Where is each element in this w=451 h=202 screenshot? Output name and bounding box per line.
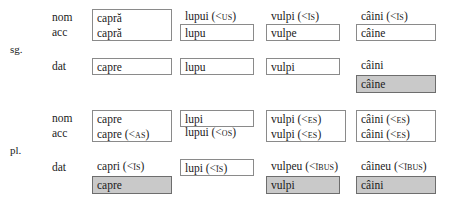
paradigm-table: sg. nom acc dat capră capră capre lupui … [0,0,451,202]
cell-acc-vulpe-sg: vulpe [266,24,340,41]
etymon-smallcaps: es [397,113,407,125]
etymon-tail: ) [317,113,321,125]
etymon-reflex: câineu (< [361,160,404,172]
cell-text-dat: capre [97,60,171,75]
column-lup-sg: lupui (<us) lupu lupu [180,0,266,101]
cell-dat-caine-pl: câineu (<ībus) [356,159,440,176]
cell-text-acc: capre (<as) [97,127,171,142]
etymon-tail: ) [334,160,338,172]
etymon-reflex: vulpi (< [271,128,308,140]
cell-nom-acc-capra-pl: capre capre (<as) [92,110,172,142]
case-label-acc-pl: acc [52,127,86,140]
case-label-nom-pl: nom [52,112,86,125]
column-vulpe-sg: vulpi (<īs) vulpe vulpi [266,0,352,101]
cell-dat-lup-sg: lupu [180,58,254,75]
column-lup-pl: lupi lupui (<os) lupi (<īs) [180,101,266,202]
etymon-smallcaps: es [308,128,318,140]
cell-dat-alt-vulpe-pl: vulpi [266,176,340,194]
etymon-reflex: lupui (< [185,10,222,22]
number-label-singular: sg. [10,43,44,55]
case-label-acc-sg: acc [52,26,86,39]
cell-dat-vulpe-pl: vulpeu (<ībus) [266,159,346,176]
etymon-reflex: capri (< [97,160,133,172]
cell-text-nom: vulpi (<es) [271,112,345,127]
number-block-plural: pl. nom acc dat capre capre (<as) capri … [0,101,451,202]
etymon-smallcaps: ībus [316,160,335,172]
etymon-reflex: vulpi (< [271,113,308,125]
cell-text-nom: capră [97,11,171,26]
etymon-tail: ) [315,10,319,22]
etymon-smallcaps: es [397,128,407,140]
etymon-reflex: capre (< [97,128,135,140]
column-caine-pl: câini (<es) câini (<es) câineu (<ībus) c… [356,101,446,202]
etymon-reflex: lupui (< [185,126,222,138]
number-block-singular: sg. nom acc dat capră capră capre lupui … [0,0,451,101]
cell-text-dat-alt: câini [361,178,435,193]
etymon-tail: ) [423,160,427,172]
cell-text-acc: capră [97,26,171,41]
cell-text-nom: vulpi (<īs) [271,9,346,24]
etymon-reflex: câini (< [361,128,397,140]
etymon-tail: ) [223,162,227,174]
cell-text-nom: câini (<es) [361,112,435,127]
case-label-nom-sg: nom [52,11,86,24]
etymon-tail: ) [232,126,236,138]
etymon-reflex: vulpi (< [271,10,308,22]
etymon-tail: ) [232,10,236,22]
cell-nom-acc-vulpe-pl: vulpi (<es) vulpi (<es) [266,110,346,142]
column-caine-sg: câini (<īs) câine câini câine [356,0,446,101]
cell-dat-vulpe-sg: vulpi [266,58,340,75]
cell-text-dat: capri (<īs) [97,159,172,174]
cell-dat-capra-sg: capre [92,58,172,75]
cell-dat-alt-capra-pl: capre [92,176,172,194]
etymon-reflex: lupi (< [185,162,216,174]
cell-text-dat-alt: câine [361,77,435,92]
etymon-tail: ) [146,128,150,140]
cell-text-acc: câini (<es) [361,127,435,142]
cell-text-dat: lupi (<īs) [185,161,253,176]
cell-text-dat-alt: vulpi [271,178,339,193]
cell-text-acc: lupui (<os) [185,125,260,140]
etymon-tail: ) [317,128,321,140]
cell-acc-lup-sg: lupu [180,24,254,41]
etymon-smallcaps: as [135,128,145,140]
etymon-tail: ) [406,128,410,140]
cell-dat-alt-caine-sg: câine [356,75,436,93]
cell-dat-alt-caine-pl: câini [356,176,436,194]
etymon-reflex: câini (< [361,10,397,22]
cell-dat-lup-pl: lupi (<īs) [180,159,254,176]
etymon-smallcaps: es [308,113,318,125]
cell-nom-acc-capra-sg: capră capră [92,9,172,41]
cell-dat-caine-sg: câini [356,58,436,75]
column-vulpe-pl: vulpi (<es) vulpi (<es) vulpeu (<ībus) v… [266,101,352,202]
cell-text-nom: capre [97,112,171,127]
etymon-reflex: vulpeu (< [271,160,316,172]
etymon-smallcaps: os [222,126,232,138]
cell-text-dat: vulpeu (<ībus) [271,159,346,174]
etymon-tail: ) [404,10,408,22]
etymon-tail: ) [406,113,410,125]
etymon-smallcaps: īs [397,10,404,22]
etymon-smallcaps: īs [133,160,140,172]
etymon-reflex: câini (< [361,113,397,125]
cell-acc-lup-pl: lupui (<os) [180,125,260,142]
cell-text-dat: câineu (<ībus) [361,159,440,174]
cell-text-acc: vulpe [271,26,339,41]
cell-text-dat: vulpi [271,60,339,75]
cell-text-dat: lupu [185,60,253,75]
column-capra-pl: capre capre (<as) capri (<īs) capre [92,101,178,202]
case-label-dat-pl: dat [52,161,86,174]
cell-text-nom: lupui (<us) [185,9,260,24]
cell-text-dat: câini [361,58,436,73]
number-label-plural: pl. [10,144,44,156]
cell-dat-capra-pl: capri (<īs) [92,159,172,176]
column-capra-sg: capră capră capre [92,0,178,101]
cell-text-dat-alt: capre [97,178,171,193]
cell-text-nom: câini (<īs) [361,9,440,24]
etymon-smallcaps: us [222,10,232,22]
cell-text-acc: vulpi (<es) [271,127,345,142]
etymon-smallcaps: ībus [404,160,423,172]
etymon-tail: ) [141,160,145,172]
case-label-dat-sg: dat [52,60,86,73]
cell-nom-acc-caine-pl: câini (<es) câini (<es) [356,110,436,142]
